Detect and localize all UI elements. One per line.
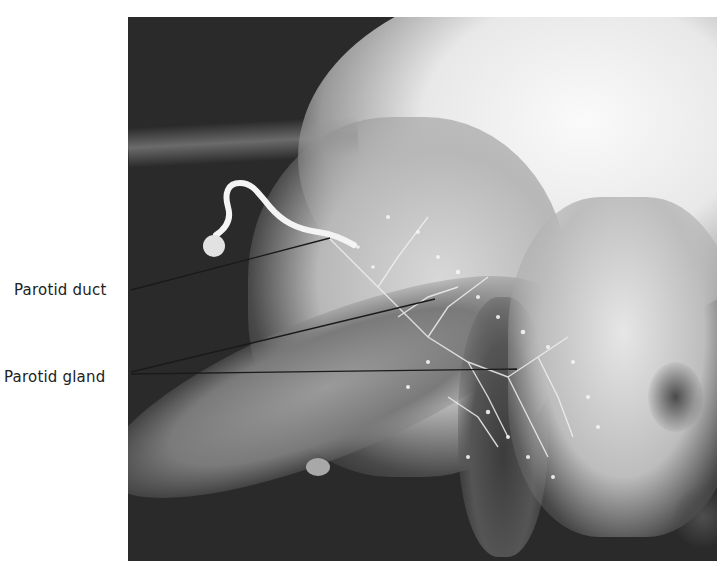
leader-lines — [0, 0, 724, 567]
leader-line-parotid-gland-2 — [131, 369, 517, 374]
label-parotid-duct: Parotid duct — [14, 281, 106, 299]
label-parotid-gland: Parotid gland — [4, 368, 105, 386]
leader-line-parotid-duct — [131, 238, 330, 290]
leader-line-parotid-gland-1 — [131, 299, 435, 372]
